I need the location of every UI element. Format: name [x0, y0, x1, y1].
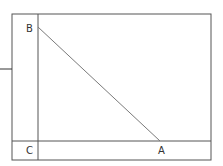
triangle-diagram: B C A: [0, 0, 223, 166]
point-b-label: B: [26, 23, 33, 34]
hypotenuse-line: [38, 27, 160, 141]
point-c-label: C: [26, 145, 33, 156]
point-a-label: A: [158, 145, 165, 156]
outer-frame: [12, 14, 211, 160]
